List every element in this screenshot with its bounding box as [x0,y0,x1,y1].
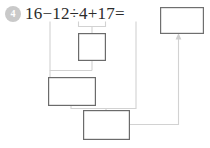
work-box-step-1-value [78,33,105,60]
answer-box-value [160,7,204,33]
connector-bracket-division [79,22,106,27]
work-box-step-2-value [48,77,95,105]
connector-from-seventeen [106,22,136,109]
worksheet-canvas: 4 16−12÷4+17= [0,0,210,148]
work-box-step-3-value [83,110,129,139]
